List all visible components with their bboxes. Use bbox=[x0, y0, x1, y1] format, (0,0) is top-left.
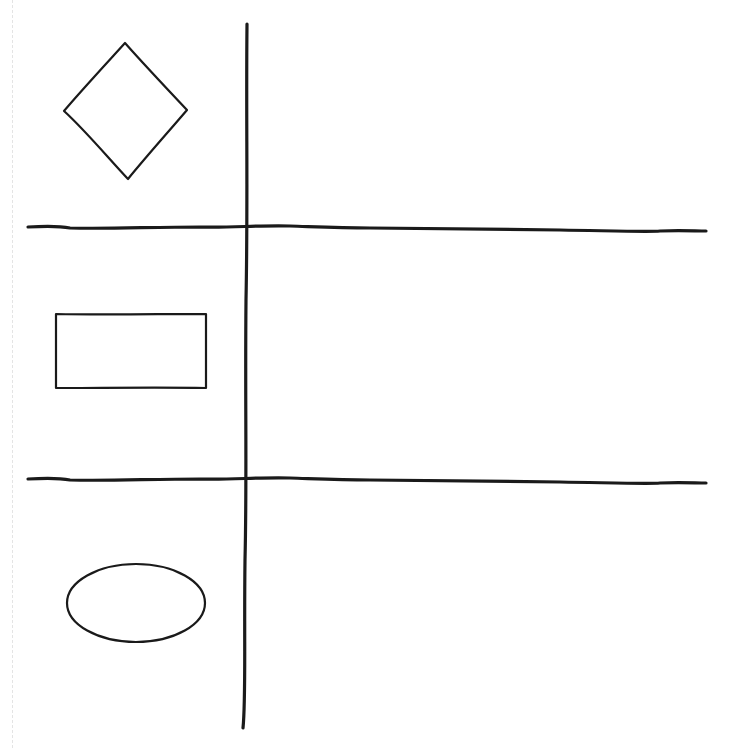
vertical-divider-line bbox=[243, 24, 247, 728]
rectangle-shape bbox=[56, 314, 206, 388]
diamond-shape bbox=[64, 43, 187, 179]
horizontal-divider-line-1 bbox=[28, 226, 706, 232]
ellipse-shape bbox=[67, 564, 205, 642]
sketch-canvas bbox=[0, 0, 742, 748]
horizontal-divider-line-2 bbox=[28, 478, 706, 484]
